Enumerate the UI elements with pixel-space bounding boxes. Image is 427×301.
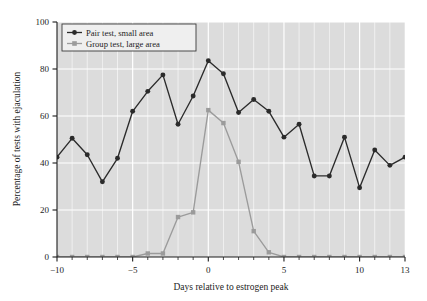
x-tick-label: 0: [206, 265, 211, 275]
data-point: [236, 110, 241, 115]
data-point: [342, 135, 347, 140]
data-point: [191, 210, 195, 214]
x-tick-label: −5: [128, 265, 138, 275]
x-tick-label: 5: [282, 265, 287, 275]
data-point: [297, 122, 302, 127]
data-point: [130, 109, 135, 114]
x-tick-label: 10: [355, 265, 365, 275]
data-point: [267, 250, 271, 254]
data-point: [251, 97, 256, 102]
data-point: [312, 173, 317, 178]
legend: Pair test, small area Group test, large …: [62, 24, 196, 51]
data-point: [85, 152, 90, 157]
data-point: [327, 173, 332, 178]
data-point: [206, 58, 211, 63]
data-point: [266, 109, 271, 114]
data-point: [115, 156, 120, 161]
data-point: [282, 135, 287, 140]
figure-container: −10−5051013 020406080100 Days relative t…: [0, 0, 427, 301]
plot-area-background: [57, 22, 405, 257]
data-point: [221, 71, 226, 76]
y-tick-label: 40: [40, 158, 50, 168]
legend-label-pair: Pair test, small area: [86, 28, 153, 38]
data-point: [191, 94, 196, 99]
data-point: [236, 160, 240, 164]
x-tick-label: 13: [401, 265, 411, 275]
data-point: [252, 229, 256, 233]
y-tick-label: 20: [40, 205, 50, 215]
line-chart: −10−5051013 020406080100 Days relative t…: [0, 0, 427, 301]
x-axis-title: Days relative to estrogen peak: [173, 282, 288, 292]
data-point: [387, 163, 392, 168]
legend-marker-pair: [72, 30, 77, 35]
data-point: [221, 121, 225, 125]
y-tick-label: 80: [40, 64, 50, 74]
y-tick-label: 60: [40, 111, 50, 121]
data-point: [100, 179, 105, 184]
data-point: [145, 89, 150, 94]
data-point: [372, 148, 377, 153]
data-point: [176, 122, 181, 127]
data-point: [161, 251, 165, 255]
data-point: [70, 136, 75, 141]
data-point: [206, 108, 210, 112]
data-point: [160, 72, 165, 77]
legend-label-group: Group test, large area: [86, 39, 160, 49]
y-tick-label: 100: [36, 17, 50, 27]
data-point: [176, 215, 180, 219]
y-tick-label: 0: [45, 252, 50, 262]
data-point: [146, 251, 150, 255]
y-axis-title: Percentage of tests with ejaculation: [12, 71, 22, 206]
x-tick-label: −10: [50, 265, 65, 275]
data-point: [357, 185, 362, 190]
legend-marker-group: [72, 41, 77, 46]
